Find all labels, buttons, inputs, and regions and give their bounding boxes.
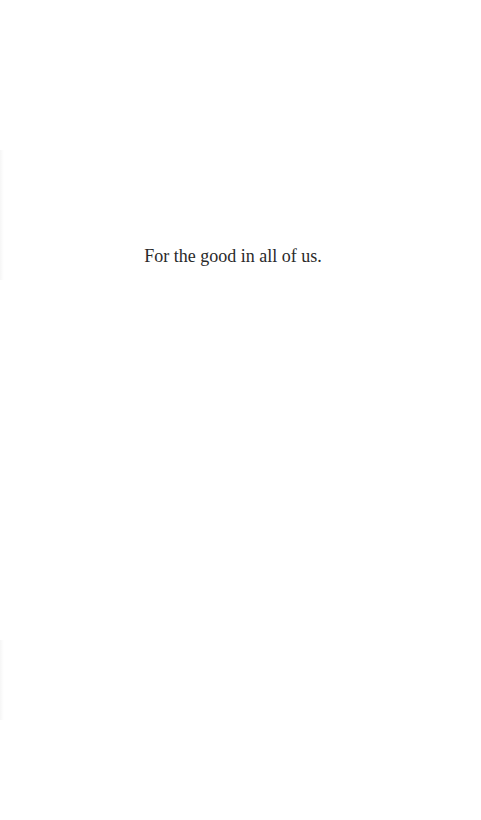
book-page: For the good in all of us. [0,0,481,820]
dedication-text: For the good in all of us. [0,244,466,268]
page-edge-shadow [0,640,4,720]
